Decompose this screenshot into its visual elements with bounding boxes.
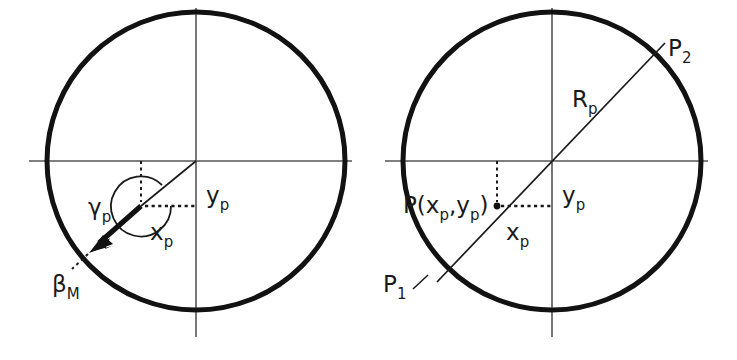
p1-leader-line xyxy=(413,275,428,289)
left-panel: γp βM yp xp xyxy=(29,8,352,337)
left-x-p-label: xp xyxy=(150,219,173,251)
r-p-label: Rp xyxy=(572,86,598,118)
p1-label: P1 xyxy=(383,271,406,303)
left-arrow-head-fill xyxy=(89,235,113,253)
chord-line-p1-p2 xyxy=(437,43,665,282)
right-x-p-label: xp xyxy=(506,219,529,251)
right-y-p-label: yp xyxy=(562,182,585,214)
point-p-marker xyxy=(494,203,501,210)
left-y-p-label: yp xyxy=(206,182,229,214)
physics-figure-svg: γp βM yp xp xyxy=(0,0,737,360)
right-panel: P(xp,yp) Rp P2 P1 yp xp xyxy=(383,8,708,337)
beta-m-label: βM xyxy=(52,271,80,303)
figure-root: γp βM yp xp xyxy=(0,0,737,360)
gamma-p-label: γp xyxy=(88,194,111,226)
p2-label: P2 xyxy=(668,35,691,67)
left-radius-line xyxy=(141,161,196,206)
